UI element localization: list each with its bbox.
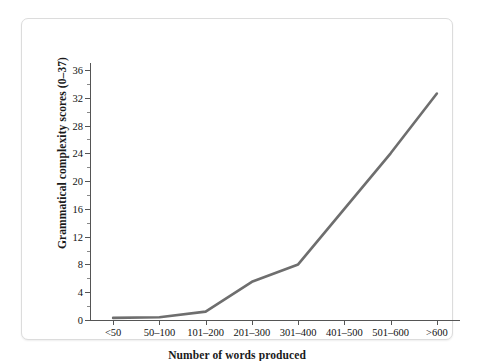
y-axis-tick-label: 0 bbox=[78, 315, 83, 326]
x-axis-tick-label: 101–200 bbox=[187, 327, 224, 338]
y-axis-tick-label: 36 bbox=[73, 64, 84, 75]
figure-frame: Grammatical complexity scores (0–37) Num… bbox=[21, 18, 453, 340]
x-axis-tick-label: 301–400 bbox=[280, 327, 317, 338]
y-axis-tick-label: 28 bbox=[73, 120, 84, 131]
y-axis-tick-label: 4 bbox=[78, 287, 83, 298]
plot-area: 04812162024283236 <5050–100101–200201–30… bbox=[90, 63, 460, 321]
data-line-chart bbox=[90, 63, 460, 321]
x-axis-tick-label: <50 bbox=[105, 327, 121, 338]
x-axis-title: Number of words produced bbox=[22, 349, 452, 361]
x-axis-tick-label: >600 bbox=[426, 327, 448, 338]
y-axis-tick-label: 12 bbox=[73, 231, 84, 242]
x-axis-tick-label: 401–500 bbox=[326, 327, 363, 338]
y-axis-tick-label: 32 bbox=[73, 92, 84, 103]
y-axis-title: Grammatical complexity scores (0–37) bbox=[56, 33, 68, 273]
y-axis-tick-label: 16 bbox=[73, 203, 84, 214]
x-axis-tick-label: 201–300 bbox=[234, 327, 271, 338]
x-axis-tick-label: 50–100 bbox=[144, 327, 176, 338]
y-axis-tick-label: 24 bbox=[73, 148, 84, 159]
y-axis-tick-label: 8 bbox=[78, 259, 83, 270]
x-axis-tick-label: 501–600 bbox=[372, 327, 409, 338]
data-series-line bbox=[113, 94, 437, 318]
y-axis-tick-label: 20 bbox=[73, 176, 84, 187]
